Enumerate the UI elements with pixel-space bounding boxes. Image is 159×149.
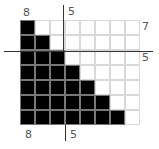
- grid-cell: [80, 20, 95, 35]
- grid-cell: [110, 20, 125, 35]
- grid-cell: [35, 80, 50, 95]
- grid-cell: [95, 80, 110, 95]
- grid-cell: [65, 50, 80, 65]
- grid-cell: [110, 110, 125, 125]
- grid-cell: [35, 20, 50, 35]
- horizontal-cut-line: [4, 51, 153, 52]
- grid-cell: [125, 50, 140, 65]
- grid-cell: [125, 110, 140, 125]
- grid-cell: [80, 110, 95, 125]
- grid-cell: [65, 20, 80, 35]
- grid-cell: [80, 50, 95, 65]
- label-bottom-center: 5: [70, 129, 77, 140]
- grid-cell: [35, 50, 50, 65]
- grid-cell: [35, 65, 50, 80]
- grid-cell: [65, 80, 80, 95]
- grid-cell: [50, 65, 65, 80]
- grid-cell: [65, 95, 80, 110]
- grid-cell: [80, 95, 95, 110]
- grid-cell: [125, 80, 140, 95]
- grid-cell: [50, 110, 65, 125]
- grid-cell: [35, 35, 50, 50]
- grid-cell: [20, 110, 35, 125]
- grid-cell: [20, 80, 35, 95]
- grid-cell: [20, 20, 35, 35]
- grid-cell: [80, 80, 95, 95]
- grid-cell: [50, 95, 65, 110]
- grid-cell: [125, 35, 140, 50]
- grid-cell: [65, 65, 80, 80]
- grid-cell: [50, 80, 65, 95]
- grid-cell: [35, 110, 50, 125]
- grid-cell: [95, 20, 110, 35]
- grid-cell: [80, 35, 95, 50]
- grid-cell: [80, 65, 95, 80]
- grid-cell: [125, 20, 140, 35]
- grid-cell: [20, 95, 35, 110]
- grid-cell: [35, 95, 50, 110]
- grid-cell: [20, 35, 35, 50]
- grid-cell: [95, 50, 110, 65]
- grid-cell: [110, 50, 125, 65]
- grid-cell: [110, 95, 125, 110]
- grid-cell: [95, 110, 110, 125]
- grid-cell: [65, 110, 80, 125]
- grid-cell: [95, 35, 110, 50]
- grid-cell: [95, 65, 110, 80]
- vertical-cut-line-top: [63, 5, 64, 51]
- grid-cell: [20, 50, 35, 65]
- vertical-cut-line-bottom: [65, 125, 66, 141]
- grid-cell: [95, 95, 110, 110]
- grid-cell: [65, 35, 80, 50]
- label-right-top: 7: [142, 21, 149, 32]
- label-top-left: 8: [23, 7, 30, 18]
- label-right-middle: 5: [142, 52, 149, 63]
- label-bottom-left: 8: [25, 129, 32, 140]
- grid-cell: [110, 80, 125, 95]
- grid-cell: [20, 65, 35, 80]
- grid-cell: [110, 65, 125, 80]
- grid-cell: [50, 50, 65, 65]
- grid-cell: [110, 35, 125, 50]
- grid-cell: [125, 95, 140, 110]
- label-top-center: 5: [68, 6, 75, 17]
- grid-cell: [125, 65, 140, 80]
- staircase-grid: [20, 20, 140, 125]
